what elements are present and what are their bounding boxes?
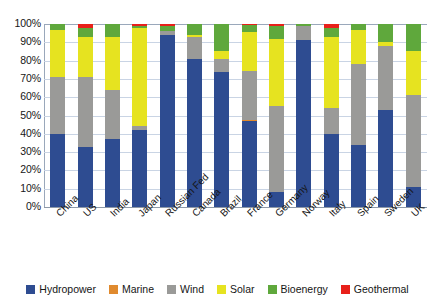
- y-tick: 50%: [0, 110, 41, 121]
- bar-column: [78, 24, 93, 207]
- bar-segment-hydropower: [296, 40, 311, 207]
- bar-segment-wind: [269, 106, 284, 192]
- y-tick-label: 100%: [1, 18, 41, 29]
- y-tick: 30%: [0, 146, 41, 157]
- bar-segment-solar: [105, 37, 120, 90]
- y-tick: 40%: [0, 128, 41, 139]
- bar-segment-solar: [269, 39, 284, 107]
- plot-area: [44, 24, 427, 207]
- legend-swatch-icon: [167, 285, 176, 294]
- bar-segment-geothermal: [269, 24, 284, 26]
- y-tick-label: 10%: [1, 183, 41, 194]
- bar-column: [351, 24, 366, 207]
- chart-legend: HydropowerMarineWindSolarBioenergyGeothe…: [0, 279, 435, 299]
- legend-label: Wind: [180, 284, 204, 295]
- bar-column: [269, 24, 284, 207]
- bar-segment-wind: [105, 90, 120, 139]
- bar-segment-wind: [50, 77, 65, 134]
- bar-segment-bioenergy: [214, 24, 229, 51]
- bar-segment-wind: [132, 126, 147, 130]
- legend-swatch-icon: [268, 285, 277, 294]
- x-axis-tick-labels: ChinaUSIndiaJapanRussian FedCanadaBrazil…: [44, 208, 427, 270]
- bar-segment-bioenergy: [406, 24, 421, 51]
- y-tick-label: 60%: [1, 91, 41, 102]
- bar-segment-bioenergy: [378, 24, 393, 42]
- bar-column: [105, 24, 120, 207]
- bar-column: [324, 24, 339, 207]
- bar-segment-geothermal: [160, 24, 175, 26]
- bar-segment-hydropower: [50, 134, 65, 207]
- bar-segment-bioenergy: [132, 26, 147, 28]
- bar-segment-bioenergy: [50, 24, 65, 29]
- y-tick-label: 50%: [1, 110, 41, 121]
- bar-segment-wind: [214, 59, 229, 72]
- bar-segment-bioenergy: [78, 28, 93, 37]
- bar-column: [378, 24, 393, 207]
- legend-swatch-icon: [109, 285, 118, 294]
- bar-segment-solar: [242, 32, 257, 70]
- bar-segment-geothermal: [132, 24, 147, 26]
- bar-column: [214, 24, 229, 207]
- y-tick-label: 70%: [1, 73, 41, 84]
- bar-segment-solar: [214, 51, 229, 58]
- bar-column: [160, 24, 175, 207]
- bar-segment-hydropower: [132, 130, 147, 207]
- y-tick: 90%: [0, 36, 41, 47]
- bar-segment-hydropower: [160, 35, 175, 207]
- bar-segment-solar: [324, 37, 339, 108]
- legend-item[interactable]: Wind: [167, 284, 204, 295]
- legend-label: Marine: [122, 284, 154, 295]
- bar-segment-solar: [50, 30, 65, 78]
- bar-segment-solar: [378, 42, 393, 46]
- y-tick: 10%: [0, 183, 41, 194]
- bar-segment-bioenergy: [296, 24, 311, 26]
- y-tick-label: 40%: [1, 128, 41, 139]
- bar-segment-geothermal: [78, 24, 93, 28]
- y-tick: 100%: [0, 18, 41, 29]
- y-tick-label: 30%: [1, 146, 41, 157]
- bar-column: [406, 24, 421, 207]
- legend-item[interactable]: Hydropower: [26, 284, 96, 295]
- bar-segment-hydropower: [378, 110, 393, 207]
- y-tick-label: 20%: [1, 164, 41, 175]
- y-tick: 0%: [0, 201, 41, 212]
- bar-segment-solar: [78, 37, 93, 77]
- y-tick: 80%: [0, 55, 41, 66]
- bar-segment-bioenergy: [324, 28, 339, 37]
- y-tick: 20%: [0, 164, 41, 175]
- bar-segment-wind: [242, 71, 257, 120]
- legend-item[interactable]: Bioenergy: [268, 284, 328, 295]
- bar-segment-solar: [187, 35, 202, 37]
- bar-segment-wind: [187, 37, 202, 59]
- bar-segment-bioenergy: [242, 25, 257, 32]
- bar-segment-wind: [406, 95, 421, 187]
- bar-segment-wind: [160, 31, 175, 35]
- bar-segment-bioenergy: [187, 24, 202, 35]
- bar-series-container: [44, 24, 427, 207]
- bar-segment-bioenergy: [105, 24, 120, 37]
- bar-segment-hydropower: [351, 145, 366, 207]
- bar-segment-geothermal: [242, 24, 257, 25]
- bar-segment-bioenergy: [160, 26, 175, 31]
- y-tick-label: 0%: [1, 201, 41, 212]
- legend-label: Hydropower: [39, 284, 96, 295]
- bar-segment-hydropower: [78, 147, 93, 207]
- y-tick: 60%: [0, 91, 41, 102]
- legend-label: Solar: [230, 284, 255, 295]
- bar-segment-geothermal: [324, 24, 339, 28]
- bar-segment-wind: [324, 108, 339, 134]
- legend-swatch-icon: [341, 285, 350, 294]
- bar-column: [132, 24, 147, 207]
- legend-swatch-icon: [217, 285, 226, 294]
- bar-segment-wind: [78, 77, 93, 147]
- legend-item[interactable]: Geothermal: [341, 284, 409, 295]
- legend-item[interactable]: Solar: [217, 284, 255, 295]
- bar-segment-bioenergy: [351, 24, 366, 29]
- y-tick-label: 80%: [1, 55, 41, 66]
- bar-segment-hydropower: [105, 139, 120, 207]
- legend-item[interactable]: Marine: [109, 284, 154, 295]
- bar-segment-bioenergy: [269, 26, 284, 39]
- y-tick: 70%: [0, 73, 41, 84]
- y-tick-label: 90%: [1, 36, 41, 47]
- bar-segment-wind: [351, 64, 366, 145]
